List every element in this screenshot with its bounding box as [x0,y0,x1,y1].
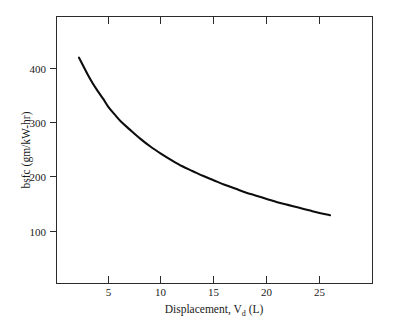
y-tick-label-300: 300 [30,117,47,129]
y-tick-labels: 400 300 200 100 [30,63,47,238]
y-tick-label-100: 100 [30,226,47,238]
x-tick-marks-top [109,17,320,24]
y-tick-label-200: 200 [30,171,47,183]
bsfc-curve [79,58,330,216]
x-axis-title-tail: (L) [246,303,264,316]
bsfc-vs-displacement-chart: 5 10 15 20 25 400 300 200 100 Displaceme… [0,0,394,324]
x-tick-label-20: 20 [261,286,273,298]
x-tick-label-10: 10 [155,286,167,298]
y-tick-label-400: 400 [30,63,47,75]
x-tick-label-25: 25 [314,286,326,298]
y-tick-marks [50,69,57,232]
chart-figure: 5 10 15 20 25 400 300 200 100 Displaceme… [0,0,394,324]
x-axis-title: Displacement, Vd (L) [165,303,264,318]
x-tick-label-5: 5 [106,286,112,298]
axes-frame [56,16,373,284]
x-tick-marks-bottom [109,276,320,283]
y-axis-title: bsfc (gm/kW-hr) [20,111,33,188]
x-tick-label-15: 15 [208,286,220,298]
x-axis-title-main: Displacement, V [165,303,243,316]
x-tick-labels: 5 10 15 20 25 [106,286,326,298]
